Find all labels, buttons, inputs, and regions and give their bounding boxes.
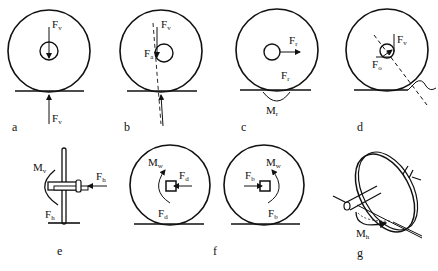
svg-text:Fo: Fo	[372, 58, 382, 72]
svg-text:Mw: Mw	[266, 156, 282, 170]
svg-text:f: f	[213, 244, 217, 258]
svg-text:Fh: Fh	[45, 208, 55, 222]
svg-text:Fv: Fv	[52, 112, 62, 126]
svg-text:Fd: Fd	[158, 207, 168, 221]
svg-text:Fa: Fa	[144, 47, 154, 61]
svg-text:Fv: Fv	[397, 33, 407, 47]
panel-b: Fv Fa b	[120, 10, 202, 134]
svg-text:Fh: Fh	[96, 170, 106, 184]
panel-d: Fv Fo d	[346, 9, 436, 134]
panel-g: Mh g	[333, 142, 430, 260]
panel-a: Fv Fv a	[8, 10, 90, 134]
svg-text:e: e	[57, 244, 62, 258]
svg-text:Fr: Fr	[289, 34, 298, 48]
panel-f-right: Mw Fb Fb f	[213, 145, 304, 258]
svg-text:d: d	[357, 120, 363, 134]
svg-text:Fb: Fb	[245, 169, 255, 183]
svg-text:Fr: Fr	[281, 69, 290, 83]
wheel-force-diagram: Fv Fv a Fv Fa b Fr Fr Mr c Fv F	[0, 0, 438, 271]
svg-text:b: b	[124, 120, 130, 134]
svg-text:Mw: Mw	[148, 156, 164, 170]
svg-text:Fv: Fv	[52, 18, 62, 32]
svg-text:Fd: Fd	[179, 169, 189, 183]
svg-text:a: a	[12, 120, 18, 134]
panel-f-left: Mw Fd Fd	[130, 145, 210, 225]
svg-text:Mr: Mr	[266, 104, 279, 118]
svg-text:Fv: Fv	[161, 18, 171, 32]
svg-text:Fb: Fb	[268, 207, 278, 221]
panel-c: Fr Fr Mr c	[236, 9, 318, 134]
svg-text:Mh: Mh	[356, 227, 370, 241]
svg-text:c: c	[241, 120, 246, 134]
svg-text:Mv: Mv	[33, 161, 47, 175]
panel-e: Mv Fh Fh e	[33, 148, 107, 258]
svg-text:g: g	[357, 246, 363, 260]
